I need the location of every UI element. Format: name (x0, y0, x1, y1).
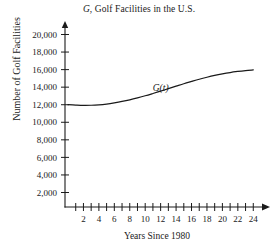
y-tick-label: 8,000 (37, 135, 58, 145)
x-tick-label: 14 (172, 214, 182, 224)
x-tick-label: 6 (112, 214, 117, 224)
x-tick-label: 18 (202, 214, 212, 224)
curve-label: G(t) (153, 83, 169, 94)
x-axis-arrow-icon (262, 204, 270, 211)
x-tick-label: 2 (81, 214, 86, 224)
y-tick-label: 4,000 (37, 170, 58, 180)
chart-figure: G, Golf Facilities in the U.S. Number of… (0, 0, 278, 252)
y-tick-label: 18,000 (32, 47, 57, 57)
y-tick-label: 6,000 (37, 153, 58, 163)
x-tick-label: 24 (249, 214, 259, 224)
x-tick-label: 10 (141, 214, 151, 224)
y-axis-arrow-icon (62, 21, 68, 28)
y-tick-label: 20,000 (32, 30, 57, 40)
curve-annotation-group: G(t) (153, 83, 169, 94)
y-tick-label: 2,000 (37, 188, 58, 198)
x-tick-label: 22 (233, 214, 242, 224)
plot-area: 2,0004,0006,0008,00010,00012,00014,00016… (0, 0, 278, 252)
x-tick-label: 16 (187, 214, 197, 224)
x-tick-label: 20 (218, 214, 228, 224)
y-tick-label: 16,000 (32, 65, 57, 75)
y-tick-label: 14,000 (32, 82, 57, 92)
x-axis-title: Years Since 1980 (62, 231, 252, 241)
x-tick-label-group: 24681012141618202224 (81, 214, 258, 224)
x-tick-label: 4 (97, 214, 102, 224)
x-tick-label: 12 (156, 214, 165, 224)
y-tick-label: 10,000 (32, 117, 57, 127)
y-tick-label: 12,000 (32, 100, 57, 110)
x-tick-label: 8 (128, 214, 133, 224)
y-tick-label-group: 2,0004,0006,0008,00010,00012,00014,00016… (32, 30, 57, 198)
